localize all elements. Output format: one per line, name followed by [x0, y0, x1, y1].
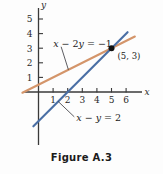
annotation-leader-lines: [58, 47, 74, 117]
intersection-point: [109, 45, 115, 51]
equation-label: x − 2y = −1: [53, 38, 112, 49]
y-tick-label: 2: [27, 58, 33, 68]
x-tick-label: 5: [109, 95, 115, 105]
x-tick-label: 3: [79, 95, 85, 105]
x-axis-label: x: [144, 87, 149, 97]
y-tick-label: 4: [27, 29, 33, 39]
y-axis-tick-labels: 12345: [27, 14, 33, 82]
figure-container: 123456 12345 x y x − 2y = −1x − y = 2 (5…: [0, 0, 163, 174]
intersection-points-group: (5, 3): [109, 45, 141, 61]
point-label: (5, 3): [118, 51, 141, 61]
leader-line: [61, 47, 68, 70]
y-tick-label: 5: [27, 14, 33, 24]
x-tick-label: 4: [94, 95, 100, 105]
y-axis-label: y: [40, 0, 47, 10]
coordinate-plot: 123456 12345 x y x − 2y = −1x − y = 2 (5…: [0, 0, 163, 174]
x-tick-label: 6: [123, 95, 129, 105]
x-tick-label: 2: [65, 95, 71, 105]
y-tick-label: 1: [27, 73, 33, 83]
equation-label: x − y = 2: [76, 112, 121, 123]
figure-caption: Figure A.3: [0, 152, 163, 163]
y-tick-label: 3: [27, 44, 33, 54]
